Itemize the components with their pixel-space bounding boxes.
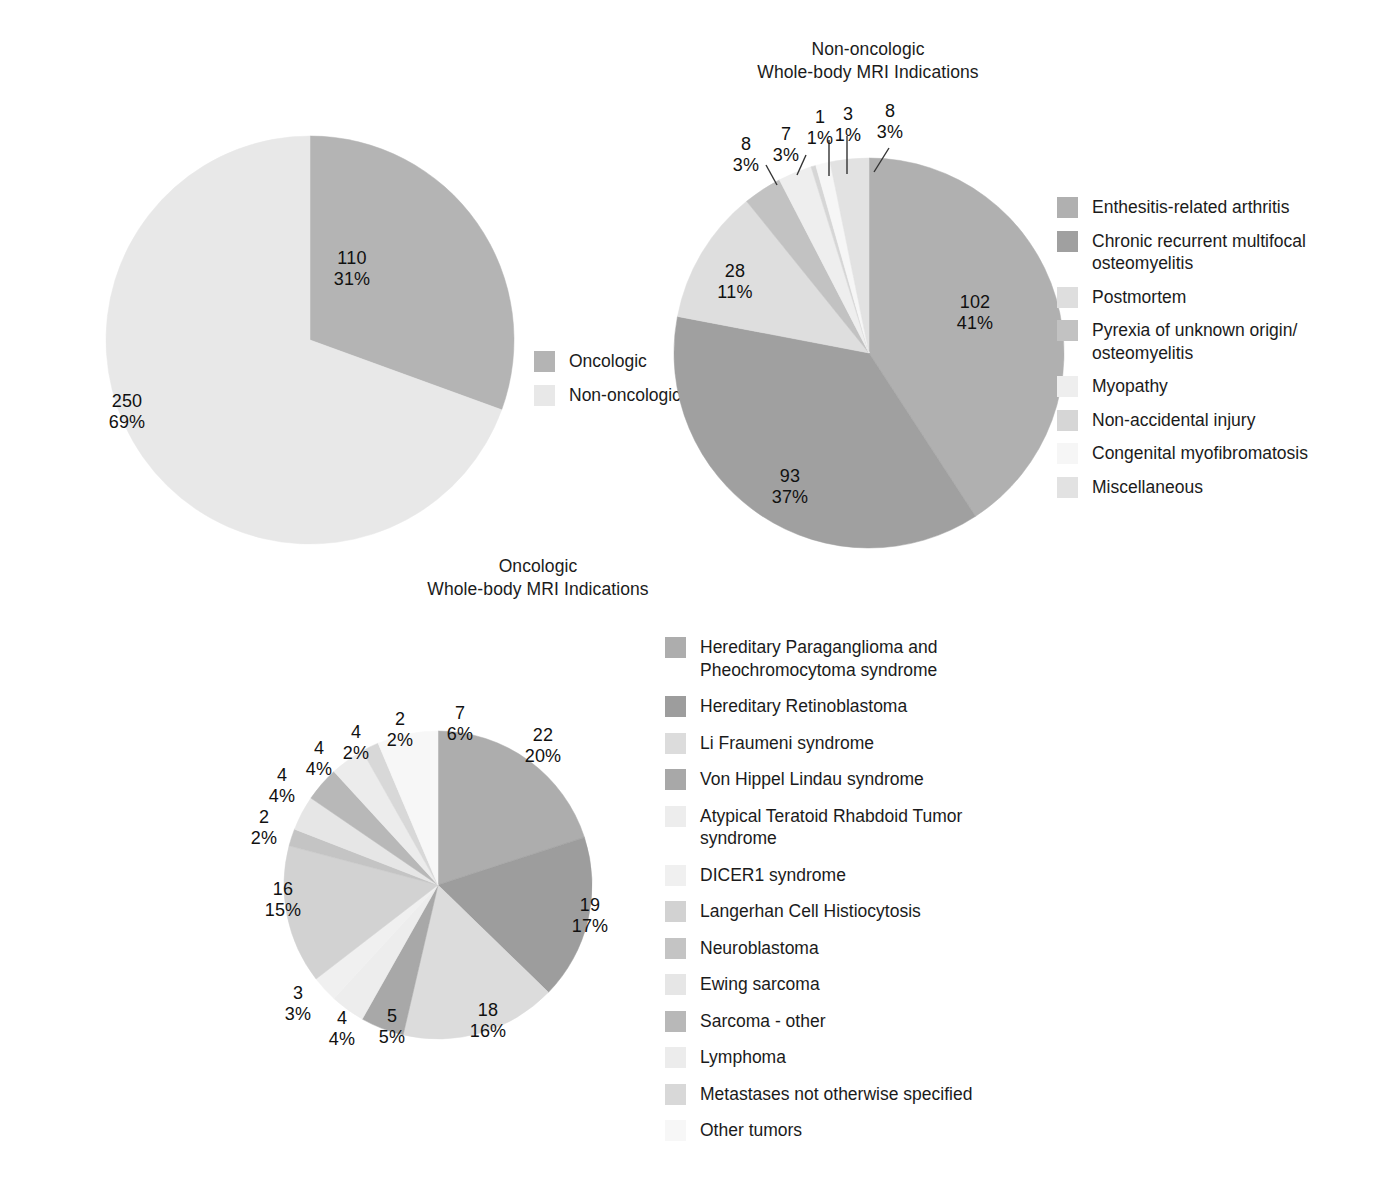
- legend-item[interactable]: Non-accidental injury: [1057, 409, 1357, 432]
- slice-label-postmortem-28: 28 11%: [700, 261, 770, 303]
- legend-label: Non-accidental injury: [1092, 409, 1255, 432]
- legend-swatch-non-oncologic: [534, 385, 555, 406]
- legend-label: Lymphoma: [700, 1046, 786, 1069]
- pie-chart-overall: [105, 135, 515, 545]
- legend-label: Sarcoma - other: [700, 1010, 825, 1033]
- chart-title-non-oncologic: Non-oncologic Whole-body MRI Indications: [738, 38, 998, 84]
- legend-label: Congenital myofibromatosis: [1092, 442, 1308, 465]
- legend-label: Other tumors: [700, 1119, 802, 1142]
- legend-swatch-neuroblastoma: [665, 938, 686, 959]
- legend-label: Neuroblastoma: [700, 937, 819, 960]
- legend-swatch-postmortem: [1057, 287, 1078, 308]
- legend-label: Postmortem: [1092, 286, 1186, 309]
- legend-swatch-retinoblastoma: [665, 696, 686, 717]
- legend-swatch-metastases: [665, 1084, 686, 1105]
- legend-item[interactable]: Li Fraumeni syndrome: [665, 732, 1085, 755]
- legend-item[interactable]: Sarcoma - other: [665, 1010, 1085, 1033]
- legend-item[interactable]: Atypical Teratoid Rhabdoid Tumor syndrom…: [665, 805, 1085, 850]
- legend-label: Metastases not otherwise specified: [700, 1083, 972, 1106]
- legend-item[interactable]: Metastases not otherwise specified: [665, 1083, 1085, 1106]
- legend-item[interactable]: Pyrexia of unknown origin/ osteomyelitis: [1057, 319, 1357, 364]
- legend-item[interactable]: Von Hippel Lindau syndrome: [665, 768, 1085, 791]
- legend-swatch-lymphoma: [665, 1047, 686, 1068]
- legend-label: Pyrexia of unknown origin/ osteomyelitis: [1092, 319, 1297, 364]
- legend-item[interactable]: Langerhan Cell Histiocytosis: [665, 900, 1085, 923]
- legend-item[interactable]: Other tumors: [665, 1119, 1085, 1142]
- legend-swatch-crmo: [1057, 231, 1078, 252]
- slice-label-paraganglioma-22: 22 20%: [513, 725, 573, 767]
- legend-label: Chronic recurrent multifocal osteomyelit…: [1092, 230, 1306, 275]
- slice-label-era-102: 102 41%: [940, 292, 1010, 334]
- legend-oncologic: Hereditary Paraganglioma and Pheochromoc…: [665, 636, 1085, 1156]
- legend-item[interactable]: Myopathy: [1057, 375, 1357, 398]
- legend-item[interactable]: Postmortem: [1057, 286, 1357, 309]
- legend-label: Non-oncologic: [569, 384, 681, 407]
- slice-label-neuroblastoma-2: 2 2%: [244, 807, 284, 849]
- legend-item[interactable]: Hereditary Paraganglioma and Pheochromoc…: [665, 636, 1085, 681]
- slice-label-crmo-93: 93 37%: [755, 466, 825, 508]
- legend-swatch-oncologic: [534, 351, 555, 372]
- legend-label: Hereditary Paraganglioma and Pheochromoc…: [700, 636, 937, 681]
- legend-item[interactable]: Neuroblastoma: [665, 937, 1085, 960]
- legend-swatch-sarcoma-other: [665, 1011, 686, 1032]
- legend-item[interactable]: Lymphoma: [665, 1046, 1085, 1069]
- legend-item[interactable]: Enthesitis-related arthritis: [1057, 196, 1357, 219]
- slice-label-langerhan-16: 16 15%: [253, 879, 313, 921]
- legend-swatch-dicer1: [665, 865, 686, 886]
- legend-label: Li Fraumeni syndrome: [700, 732, 874, 755]
- legend-swatch-pyrexia: [1057, 320, 1078, 341]
- legend-swatch-other-tumors: [665, 1120, 686, 1141]
- legend-item[interactable]: Congenital myofibromatosis: [1057, 442, 1357, 465]
- slice-label-sarcoma-other-4: 4 4%: [299, 738, 339, 780]
- legend-swatch-enthesitis: [1057, 197, 1078, 218]
- legend-swatch-paraganglioma: [665, 637, 686, 658]
- legend-swatch-von-hippel-lindau: [665, 769, 686, 790]
- pie-chart-non-oncologic: [673, 157, 1065, 549]
- legend-item[interactable]: Ewing sarcoma: [665, 973, 1085, 996]
- legend-swatch-congenital-myofibromatosis: [1057, 443, 1078, 464]
- legend-item[interactable]: Miscellaneous: [1057, 476, 1357, 499]
- legend-label: Enthesitis-related arthritis: [1092, 196, 1289, 219]
- legend-label: Langerhan Cell Histiocytosis: [700, 900, 921, 923]
- legend-label: DICER1 syndrome: [700, 864, 846, 887]
- legend-item[interactable]: DICER1 syndrome: [665, 864, 1085, 887]
- legend-label: Oncologic: [569, 350, 647, 373]
- figure-canvas: 110 31% 250 69% Oncologic Non-oncologic …: [0, 0, 1380, 1177]
- slice-label-oncologic: 110 31%: [312, 248, 392, 290]
- legend-item[interactable]: Hereditary Retinoblastoma: [665, 695, 1085, 718]
- slice-label-ewing-4: 4 4%: [262, 765, 302, 807]
- legend-label: Von Hippel Lindau syndrome: [700, 768, 924, 791]
- legend-label: Atypical Teratoid Rhabdoid Tumor syndrom…: [700, 805, 962, 850]
- legend-swatch-miscellaneous: [1057, 477, 1078, 498]
- legend-swatch-myopathy: [1057, 376, 1078, 397]
- legend-non-oncologic: Enthesitis-related arthritis Chronic rec…: [1057, 196, 1357, 509]
- legend-label: Myopathy: [1092, 375, 1168, 398]
- legend-label: Hereditary Retinoblastoma: [700, 695, 907, 718]
- slice-label-li-fraumeni-18: 18 16%: [458, 1000, 518, 1042]
- legend-swatch-ewing-sarcoma: [665, 974, 686, 995]
- slice-label-lymphoma-4: 4 2%: [336, 722, 376, 764]
- legend-swatch-langerhan: [665, 901, 686, 922]
- legend-swatch-atrt: [665, 806, 686, 827]
- slice-label-atrt-4: 4 4%: [322, 1008, 362, 1050]
- legend-label: Ewing sarcoma: [700, 973, 820, 996]
- slice-label-other-tumors-7: 7 6%: [440, 703, 480, 745]
- slice-label-metastases-2: 2 2%: [380, 709, 420, 751]
- slice-label-dicer1-3: 3 3%: [278, 983, 318, 1025]
- slice-label-misc-8: 8 3%: [868, 101, 912, 143]
- legend-label: Miscellaneous: [1092, 476, 1203, 499]
- slice-label-congenital-3: 3 1%: [828, 104, 868, 146]
- legend-item[interactable]: Chronic recurrent multifocal osteomyelit…: [1057, 230, 1357, 275]
- slice-label-non-oncologic: 250 69%: [87, 391, 167, 433]
- slice-label-von-hippel-5: 5 5%: [372, 1006, 412, 1048]
- chart-title-oncologic: Oncologic Whole-body MRI Indications: [388, 555, 688, 601]
- slice-label-retinoblastoma-19: 19 17%: [560, 895, 620, 937]
- legend-swatch-non-accidental-injury: [1057, 410, 1078, 431]
- legend-swatch-li-fraumeni: [665, 733, 686, 754]
